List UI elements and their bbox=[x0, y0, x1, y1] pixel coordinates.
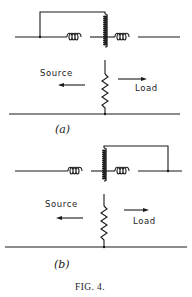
shunt-resistor-icon bbox=[102, 74, 108, 114]
left-arrow-icon bbox=[58, 83, 64, 87]
tap-bracket bbox=[104, 146, 168, 171]
right-arrow-icon bbox=[141, 77, 147, 81]
series-inductor-right-icon bbox=[115, 33, 129, 40]
load-label: Load bbox=[135, 83, 158, 93]
junction-dot bbox=[39, 36, 41, 38]
figure-4-diagram: Source Load (a) Source Load (b) FIG. 4. bbox=[0, 0, 192, 297]
figure-caption: FIG. 4. bbox=[75, 282, 105, 292]
panel-label-a: (a) bbox=[55, 123, 70, 136]
load-label: Load bbox=[133, 216, 156, 226]
panel-b: Source Load (b) bbox=[5, 146, 187, 271]
series-inductor-right-icon bbox=[115, 167, 129, 174]
right-arrow-icon bbox=[143, 208, 149, 212]
series-inductor-left-icon bbox=[68, 167, 82, 174]
left-arrow-icon bbox=[56, 216, 62, 220]
panel-a: Source Load (a) bbox=[9, 12, 180, 136]
shunt-resistor-icon bbox=[101, 206, 107, 247]
source-label: Source bbox=[45, 199, 78, 209]
panel-label-b: (b) bbox=[54, 258, 70, 271]
tapped-shunt-inductor-icon bbox=[103, 148, 107, 181]
series-inductor-left-icon bbox=[67, 33, 81, 40]
tapped-shunt-inductor-icon bbox=[104, 14, 108, 47]
source-label: Source bbox=[40, 68, 73, 78]
junction-dot bbox=[167, 170, 169, 172]
